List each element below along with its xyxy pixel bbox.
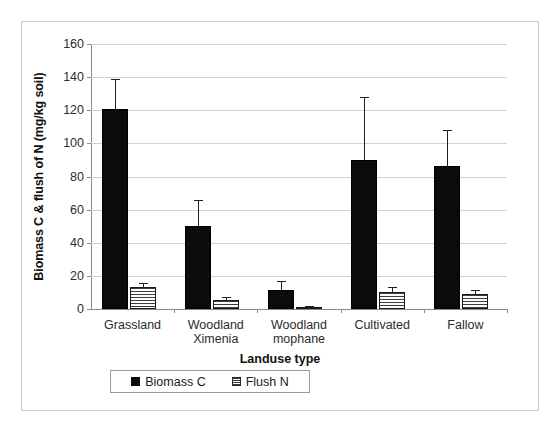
bar-biomass-c-cultivated bbox=[351, 160, 377, 309]
y-tick-mark bbox=[87, 309, 91, 310]
y-tick-label: 100 bbox=[63, 136, 84, 150]
bar-flush-n-fallow bbox=[462, 294, 488, 309]
y-tick-label: 0 bbox=[77, 302, 84, 316]
x-tick-mark bbox=[507, 309, 508, 313]
error-bar bbox=[198, 200, 199, 227]
bar-biomass-c-woodland-ximenia bbox=[185, 226, 211, 309]
bar-flush-n-woodland-ximenia bbox=[213, 300, 239, 309]
bar-flush-n-woodland-mophane bbox=[296, 307, 322, 309]
y-tick-mark bbox=[87, 77, 91, 78]
y-tick-mark bbox=[87, 243, 91, 244]
x-axis-baseline bbox=[91, 309, 507, 310]
figure-frame: Biomass C & flush of N (mg/kg soil) 0204… bbox=[21, 21, 539, 411]
error-bar bbox=[281, 281, 282, 290]
y-tick-label: 160 bbox=[63, 37, 84, 51]
error-bar-cap bbox=[111, 79, 120, 80]
error-bar-cap bbox=[443, 130, 452, 131]
legend-label: Flush N bbox=[246, 375, 289, 389]
y-tick-mark bbox=[87, 177, 91, 178]
x-tick-mark bbox=[257, 309, 258, 313]
x-tick-mark bbox=[341, 309, 342, 313]
y-tick-label: 120 bbox=[63, 103, 84, 117]
y-axis-title: Biomass C & flush of N (mg/kg soil) bbox=[30, 44, 48, 309]
gridline bbox=[91, 143, 507, 144]
bar-flush-n-grassland bbox=[130, 287, 156, 309]
y-tick-label: 80 bbox=[70, 170, 84, 184]
striped-square-icon bbox=[232, 377, 241, 386]
y-tick-mark bbox=[87, 110, 91, 111]
error-bar-cap bbox=[360, 97, 369, 98]
error-bar-cap bbox=[277, 281, 286, 282]
x-tick-mark bbox=[424, 309, 425, 313]
gridline bbox=[91, 44, 507, 45]
error-bar bbox=[447, 130, 448, 166]
y-tick-mark bbox=[87, 276, 91, 277]
bar-biomass-c-fallow bbox=[434, 166, 460, 309]
error-bar-cap bbox=[222, 297, 231, 298]
y-tick-mark bbox=[87, 143, 91, 144]
error-bar-cap bbox=[194, 200, 203, 201]
y-tick-label: 140 bbox=[63, 70, 84, 84]
y-tick-label: 20 bbox=[70, 269, 84, 283]
x-tick-label-fallow: Fallow bbox=[414, 318, 517, 332]
legend-entry-flush-n: Flush N bbox=[232, 375, 289, 389]
y-tick-mark bbox=[87, 44, 91, 45]
error-bar bbox=[364, 97, 365, 160]
black-square-icon bbox=[131, 377, 140, 386]
legend-label: Biomass C bbox=[145, 375, 205, 389]
gridline bbox=[91, 77, 507, 78]
error-bar-cap bbox=[305, 306, 314, 307]
y-tick-label: 60 bbox=[70, 203, 84, 217]
x-axis-title: Landuse type bbox=[22, 352, 538, 366]
plot-area: 020406080100120140160 bbox=[91, 44, 507, 309]
bar-biomass-c-woodland-mophane bbox=[268, 290, 294, 309]
gridline bbox=[91, 110, 507, 111]
y-tick-label: 40 bbox=[70, 236, 84, 250]
error-bar-cap bbox=[139, 283, 148, 284]
error-bar-cap bbox=[471, 290, 480, 291]
legend-entry-biomass-c: Biomass C bbox=[131, 375, 205, 389]
x-tick-mark bbox=[174, 309, 175, 313]
bar-biomass-c-grassland bbox=[102, 109, 128, 309]
y-tick-mark bbox=[87, 210, 91, 211]
chart-legend: Biomass CFlush N bbox=[110, 370, 310, 393]
error-bar-cap bbox=[388, 287, 397, 288]
error-bar bbox=[115, 79, 116, 110]
bar-flush-n-cultivated bbox=[379, 292, 405, 309]
